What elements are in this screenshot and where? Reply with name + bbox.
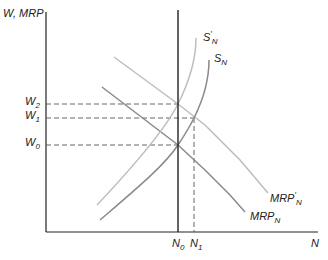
w2-label: W2 bbox=[25, 96, 40, 110]
y-axis-label: W, MRP bbox=[3, 8, 44, 19]
w0-label: W0 bbox=[25, 137, 40, 151]
mrp-prime-label: MRP′N bbox=[270, 191, 302, 207]
s-prime-label: S′N bbox=[203, 30, 218, 46]
mrp-curve bbox=[102, 87, 245, 212]
w1-label: W1 bbox=[25, 110, 40, 124]
n1-label: N1 bbox=[190, 238, 202, 252]
x-axis-label: N bbox=[311, 238, 319, 249]
s-label: SN bbox=[214, 53, 227, 67]
mrp-label: MRPN bbox=[250, 211, 280, 225]
n0-label: N0 bbox=[172, 238, 184, 252]
